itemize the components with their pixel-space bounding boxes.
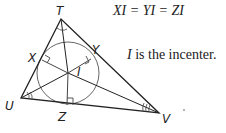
incenter-note-rest: is the incenter. <box>132 47 217 62</box>
angle-arc-u <box>27 92 29 99</box>
incenter-note: I is the incenter. <box>127 47 216 63</box>
label-i: I <box>77 65 81 79</box>
bisector-t <box>61 19 68 73</box>
label-t: T <box>56 4 65 18</box>
stray-dot <box>183 109 185 111</box>
label-u: U <box>5 99 14 113</box>
label-z: Z <box>57 110 67 124</box>
triangle-tuv <box>21 19 159 113</box>
radius-iz <box>67 73 68 105</box>
equation-text: XI = YI = ZI <box>113 3 184 19</box>
label-v: V <box>162 112 171 126</box>
bisector-v <box>68 73 159 113</box>
label-x: X <box>27 51 37 65</box>
label-y: Y <box>92 43 101 57</box>
incenter-diagram: T U V X Y Z I <box>0 0 226 133</box>
angle-arc-v3 <box>143 103 144 111</box>
radius-ix <box>42 60 68 73</box>
